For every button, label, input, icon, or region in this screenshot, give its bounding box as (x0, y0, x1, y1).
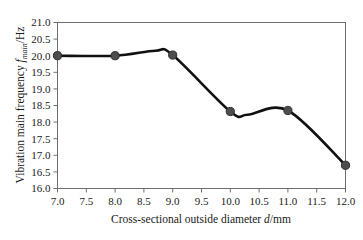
x-tick-label: 7.0 (51, 195, 65, 207)
data-point (169, 51, 177, 59)
y-tick-label: 21.0 (31, 16, 51, 28)
x-tick-label: 11.5 (307, 195, 326, 207)
y-tick-label: 17.5 (31, 133, 51, 145)
line-chart: 7.07.58.08.59.09.510.010.511.011.512.0 1… (0, 0, 363, 240)
x-tick-label: 7.5 (79, 195, 93, 207)
x-tick-label: 11.0 (278, 195, 297, 207)
y-axis-tick-labels: 16.016.517.017.518.018.519.019.520.020.5… (31, 16, 51, 194)
y-tick-label: 16.0 (31, 182, 51, 194)
x-tick-label: 8.0 (108, 195, 122, 207)
chart-figure: 7.07.58.08.59.09.510.010.511.011.512.0 1… (0, 0, 363, 240)
x-tick-label: 12.0 (336, 195, 356, 207)
y-tick-label: 16.5 (31, 166, 51, 178)
y-tick-label: 20.5 (31, 33, 51, 45)
data-point (226, 107, 234, 115)
y-tick-label: 19.0 (31, 83, 51, 95)
y-tick-label: 18.5 (31, 99, 51, 111)
x-tick-label: 8.5 (137, 195, 151, 207)
x-tick-label: 10.5 (249, 195, 269, 207)
y-tick-label: 18.0 (31, 116, 51, 128)
x-tick-label: 9.0 (166, 195, 180, 207)
y-tick-label: 19.5 (31, 66, 51, 78)
x-tick-label: 10.0 (221, 195, 241, 207)
data-point (53, 52, 61, 60)
data-point (284, 106, 292, 114)
y-tick-label: 17.0 (31, 149, 51, 161)
x-tick-label: 9.5 (195, 195, 209, 207)
y-tick-label: 20.0 (31, 50, 51, 62)
data-point (341, 161, 349, 169)
x-axis-title: Cross-sectional outside diameter d/mm (111, 213, 291, 225)
data-point (111, 52, 119, 60)
